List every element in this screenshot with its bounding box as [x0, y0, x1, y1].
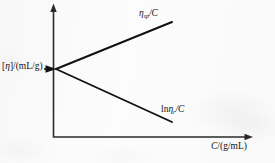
plot-canvas — [0, 0, 275, 163]
lower-curve-line — [56, 69, 172, 122]
lower-curve-label-tail: /C — [175, 104, 184, 114]
viscosity-extrapolation-figure: [η]/(mL/g) ηsp/C lnηr/C C/(g/mL) — [0, 0, 275, 163]
lower-curve-label: lnηr/C — [161, 105, 184, 116]
intercept-pointer-arrow-icon — [44, 65, 57, 72]
upper-curve-label: ηsp/C — [139, 9, 158, 20]
x-axis — [54, 134, 254, 140]
x-axis-label-suffix: /(g/mL) — [217, 141, 247, 151]
x-axis-label: C/(g/mL) — [211, 142, 247, 152]
intercept-pointer-head — [46, 65, 57, 72]
y-axis-arrowhead-icon — [50, 4, 56, 13]
y-axis-label-suffix: ]/(mL/g) — [10, 61, 43, 71]
x-axis-arrowhead-icon — [245, 134, 254, 140]
y-axis-label: [η]/(mL/g) — [2, 62, 43, 72]
upper-curve-line — [56, 22, 172, 69]
upper-curve-label-tail: /C — [149, 8, 158, 18]
